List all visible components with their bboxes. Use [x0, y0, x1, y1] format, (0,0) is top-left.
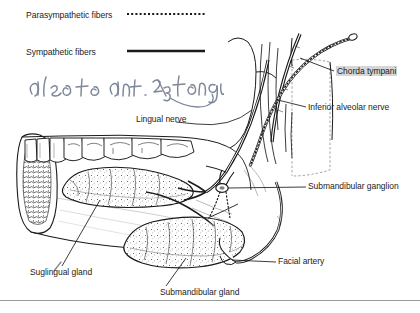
leader-submandibular-ganglion	[228, 187, 306, 188]
label-chorda-tympani: Chorda tympani	[336, 66, 397, 77]
bottom-divider	[0, 300, 420, 301]
mandibular-ramus-medial	[292, 59, 330, 176]
submandibular-gland-shape	[124, 204, 245, 268]
sublingual-gland-shape	[62, 167, 193, 207]
figure-page: Parasympathetic fibers Sympathetic fiber…	[0, 0, 420, 313]
legend-label-parasympathetic: Parasympathetic fibers	[26, 10, 112, 21]
ramus-solid-edge	[291, 38, 333, 140]
label-sublingual-gland: Suglingual gland	[30, 267, 92, 278]
label-submandibular-ganglion: Submandibular ganglion	[308, 181, 399, 192]
leader-sublingual-gland	[62, 200, 100, 266]
handwritten-pointer-tail	[170, 94, 213, 107]
mandibular-teeth	[25, 138, 194, 162]
label-submandibular-gland: Submandibular gland	[160, 287, 239, 298]
label-lingual-nerve: Lingual nerve	[136, 114, 186, 125]
chorda-tympani-nerve	[250, 33, 358, 166]
legend-swatch-sympathetic	[126, 45, 206, 57]
legend-label-sympathetic: Sympathetic fibers	[26, 47, 96, 58]
label-inferior-alveolar-nerve: Inferior alveolar nerve	[308, 102, 389, 113]
label-facial-artery: Facial artery	[278, 256, 324, 267]
label-chorda-tympani-text: Chorda tympani	[336, 66, 397, 76]
pterygoid-muscle-fibers	[260, 42, 292, 164]
legend-swatch-parasympathetic	[126, 8, 206, 20]
